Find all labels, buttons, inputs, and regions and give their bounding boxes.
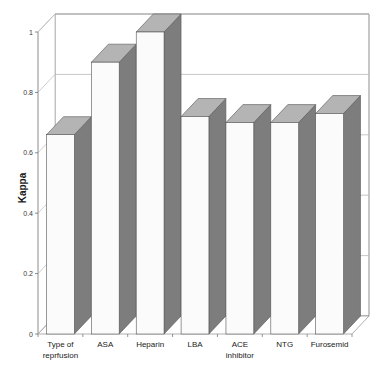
bar-side-face: [209, 99, 226, 334]
y-tick-label: 0.8: [23, 89, 33, 96]
bar-column: [181, 99, 226, 334]
x-category-label: Heparin: [136, 340, 164, 349]
chart-canvas: 00.20.40.60.81 Type ofreprfusionASAHepar…: [0, 0, 380, 381]
bar-front-face: [47, 135, 75, 334]
bar-side-face: [119, 44, 136, 334]
x-category-label: ACE: [232, 340, 248, 349]
x-category-label: Furosemid: [311, 340, 349, 349]
bar-front-face: [271, 123, 299, 334]
x-category-label: NTG: [276, 340, 293, 349]
bar-side-face: [299, 105, 316, 334]
y-tick-label: 0.6: [23, 149, 33, 156]
bar-chart-figure: 00.20.40.60.81 Type ofreprfusionASAHepar…: [0, 0, 380, 381]
bar-column: [271, 105, 316, 334]
bar-column: [47, 117, 92, 334]
bar-side-face: [164, 14, 181, 334]
y-tick-label: 0.2: [23, 270, 33, 277]
x-axis-category-labels: Type ofreprfusionASAHeparinLBAACEinhibit…: [43, 340, 349, 360]
bar-column: [316, 96, 361, 334]
bar-side-face: [343, 96, 360, 334]
y-tick-label: 0.4: [23, 210, 33, 217]
x-category-label: ASA: [97, 340, 114, 349]
bar-column: [136, 14, 181, 334]
y-axis-title-text: Kappa: [17, 172, 28, 203]
bar-front-face: [136, 32, 164, 334]
x-category-label: inhibitor: [226, 351, 254, 360]
x-category-label: reprfusion: [43, 351, 79, 360]
bar-column: [91, 44, 136, 334]
bar-column: [226, 105, 271, 334]
y-tick-label: 0: [29, 331, 33, 338]
x-axis-tick-marks: [38, 334, 352, 337]
bar-front-face: [181, 117, 209, 334]
x-category-label: Type of: [47, 340, 74, 349]
bar-front-face: [226, 123, 254, 334]
bar-side-face: [254, 105, 271, 334]
y-axis-title: Kappa: [17, 172, 28, 203]
x-category-label: LBA: [187, 340, 203, 349]
y-tick-label: 1: [29, 29, 33, 36]
bar-side-face: [74, 117, 91, 334]
bar-front-face: [91, 62, 119, 334]
bar-front-face: [316, 114, 344, 334]
